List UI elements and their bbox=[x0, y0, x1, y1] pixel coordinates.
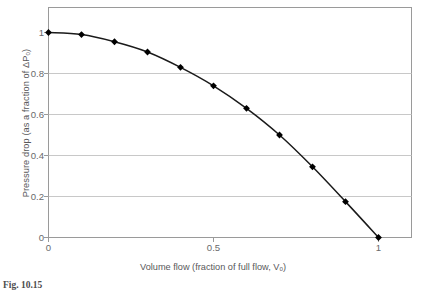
x-tick-label-1: 1 bbox=[376, 243, 381, 253]
x-tick-label-0: 0 bbox=[46, 243, 51, 253]
x-tick-label-0-5: 0.5 bbox=[207, 243, 220, 253]
y-axis-title: Pressure drop (as a fraction of ΔPₒ) bbox=[21, 18, 31, 228]
x-axis-title: Volume flow (fraction of full flow, Vₒ) bbox=[48, 262, 378, 272]
figure-caption: Fig. 10.15 bbox=[3, 280, 42, 290]
